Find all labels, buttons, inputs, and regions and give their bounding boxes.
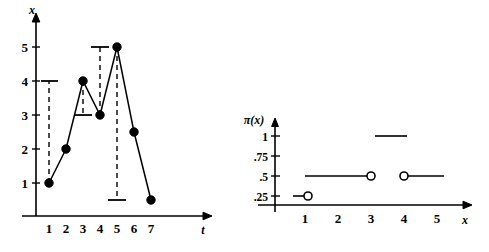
left-chart-canvas: 1 2 3 4 5 1 2 3 4 5 6 7 x t <box>0 0 245 252</box>
left-x-label-6: 6 <box>131 221 138 236</box>
right-x-label-2: 2 <box>335 211 342 226</box>
right-x-label-4: 4 <box>401 211 408 226</box>
left-x-label-7: 7 <box>148 221 155 236</box>
data-point-t7 <box>147 196 155 204</box>
left-y-label-4: 4 <box>22 74 29 89</box>
open-endpoint-05a-right <box>367 172 375 180</box>
left-x-label-1: 1 <box>46 221 53 236</box>
open-endpoint-05b-left <box>400 172 408 180</box>
left-x-label-3: 3 <box>80 221 87 236</box>
right-y-label-05: .5 <box>259 171 268 183</box>
right-y-axis-arrow <box>272 118 279 127</box>
open-endpoint-025-right <box>304 192 312 200</box>
data-point-t4 <box>96 111 104 119</box>
right-x-label-5: 5 <box>434 211 441 226</box>
figure-root: 1 2 3 4 5 1 2 3 4 5 6 7 x t <box>0 0 489 252</box>
left-x-tick-labels: 1 2 3 4 5 6 7 <box>46 221 155 236</box>
left-x-axis-arrow <box>203 212 212 220</box>
left-dashed-annotations <box>41 47 126 200</box>
left-x-label-5: 5 <box>114 221 121 236</box>
right-x-label-1: 1 <box>302 211 309 226</box>
data-point-t5 <box>113 43 121 51</box>
left-y-axis-label: x <box>28 3 35 17</box>
right-x-tick-labels: 1 2 3 4 5 <box>302 211 441 226</box>
data-point-t3 <box>79 77 87 85</box>
right-x-axis-label: x <box>461 213 468 227</box>
left-y-tick-labels: 1 2 3 4 5 <box>22 40 29 191</box>
data-point-t6 <box>130 128 138 136</box>
data-point-t1 <box>45 179 53 187</box>
left-y-label-5: 5 <box>22 40 29 55</box>
left-y-label-1: 1 <box>22 176 29 191</box>
right-x-axis-arrow <box>463 201 472 209</box>
right-y-tick-labels: .25 .5 .75 1 <box>254 131 269 203</box>
left-y-label-3: 3 <box>22 108 29 123</box>
right-y-label-025: .25 <box>254 191 269 203</box>
right-y-label-075: .75 <box>254 151 269 163</box>
right-axes <box>258 118 472 212</box>
left-x-label-4: 4 <box>97 221 104 236</box>
chart-right-step-function: .25 .5 .75 1 1 2 3 4 5 π(x) x <box>232 0 489 252</box>
right-chart-canvas: .25 .5 .75 1 1 2 3 4 5 π(x) x <box>232 0 489 252</box>
left-y-label-2: 2 <box>22 142 29 157</box>
right-step-segments <box>293 136 444 200</box>
right-y-axis-label: π(x) <box>244 113 265 127</box>
right-x-label-3: 3 <box>368 211 375 226</box>
data-point-t2 <box>62 145 70 153</box>
right-y-label-1: 1 <box>262 131 268 143</box>
left-x-label-2: 2 <box>63 221 70 236</box>
left-x-axis-label: t <box>201 223 205 237</box>
chart-left-time-series: 1 2 3 4 5 1 2 3 4 5 6 7 x t <box>0 0 245 252</box>
